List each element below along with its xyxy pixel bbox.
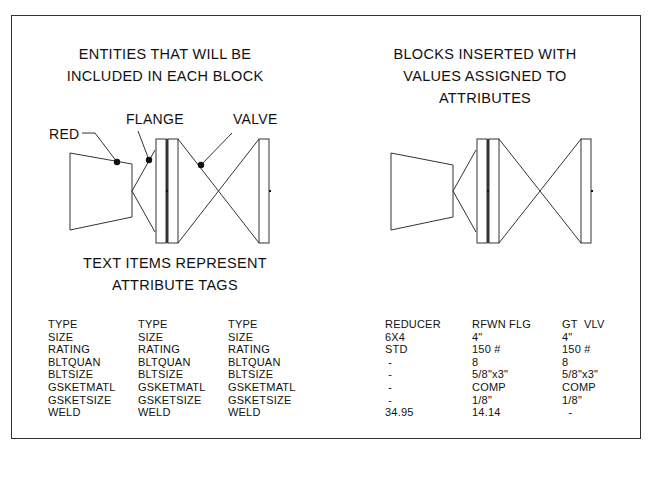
left-flange-insert-point [166,190,168,192]
tag-column-1: TYPE SIZE RATING BLTQUAN BLTSIZE GSKETMA… [48,318,116,419]
right-flange-insert-point [487,190,489,192]
left-reducer-symbol [70,153,132,230]
value-bltquan: 8 [562,356,605,369]
value-weld: - [562,406,605,419]
value-rating: 150 # [472,343,531,356]
tag-bltsize: BLTSIZE [48,368,116,381]
value-gsketsize: - [385,394,441,407]
tag-rating: RATING [138,343,206,356]
value-column-valve: GT VLV 4" 150 # 8 5/8"x3" COMP 1/8" - [562,318,605,419]
value-type: GT VLV [562,318,605,331]
value-bltsize: 5/8"x3" [562,368,605,381]
right-valve-insert-point [591,190,593,192]
tag-gsketsize: GSKETSIZE [228,394,296,407]
value-weld: 34.95 [385,406,441,419]
value-bltquan: 8 [472,356,531,369]
tag-size: SIZE [48,331,116,344]
tag-weld: WELD [138,406,206,419]
value-rating: STD [385,343,441,356]
value-gsketmatl: COMP [472,381,531,394]
right-flange-symbol [453,139,499,243]
left-valve-insert-point [269,190,271,192]
left-valve-symbol [178,139,269,243]
tag-rating: RATING [48,343,116,356]
tag-gsketsize: GSKETSIZE [48,394,116,407]
value-rating: 150 # [562,343,605,356]
tag-rating: RATING [228,343,296,356]
tag-bltsize: BLTSIZE [138,368,206,381]
tag-bltquan: BLTQUAN [228,356,296,369]
tag-gsketsize: GSKETSIZE [138,394,206,407]
tag-type: TYPE [48,318,116,331]
tag-weld: WELD [48,406,116,419]
tag-type: TYPE [138,318,206,331]
tag-size: SIZE [228,331,296,344]
left-flange-symbol [132,139,178,243]
value-column-reducer: REDUCER 6X4 STD - - - - 34.95 [385,318,441,419]
value-gsketsize: 1/8" [472,394,531,407]
tag-column-2: TYPE SIZE RATING BLTQUAN BLTSIZE GSKETMA… [138,318,206,419]
left-leaders [82,131,232,165]
value-column-flange: RFWN FLG 4" 150 # 8 5/8"x3" COMP 1/8" 14… [472,318,531,419]
value-type: RFWN FLG [472,318,531,331]
tag-bltquan: BLTQUAN [138,356,206,369]
flange-attach-point [146,157,152,163]
tag-gsketmatl: GSKETMATL [48,381,116,394]
value-gsketmatl: COMP [562,381,605,394]
value-size: 4" [472,331,531,344]
tag-type: TYPE [228,318,296,331]
value-size: 4" [562,331,605,344]
tag-size: SIZE [138,331,206,344]
valve-attach-point [198,162,204,168]
right-valve-symbol [499,139,591,243]
value-size: 6X4 [385,331,441,344]
red-attach-point [114,159,120,165]
tag-bltquan: BLTQUAN [48,356,116,369]
value-bltquan: - [385,356,441,369]
value-gsketmatl: - [385,381,441,394]
tag-gsketmatl: GSKETMATL [138,381,206,394]
value-gsketsize: 1/8" [562,394,605,407]
value-bltsize: - [385,368,441,381]
tag-bltsize: BLTSIZE [228,368,296,381]
value-type: REDUCER [385,318,441,331]
value-weld: 14.14 [472,406,531,419]
tag-weld: WELD [228,406,296,419]
value-bltsize: 5/8"x3" [472,368,531,381]
right-reducer-symbol [391,153,453,230]
tag-column-3: TYPE SIZE RATING BLTQUAN BLTSIZE GSKETMA… [228,318,296,419]
tag-gsketmatl: GSKETMATL [228,381,296,394]
